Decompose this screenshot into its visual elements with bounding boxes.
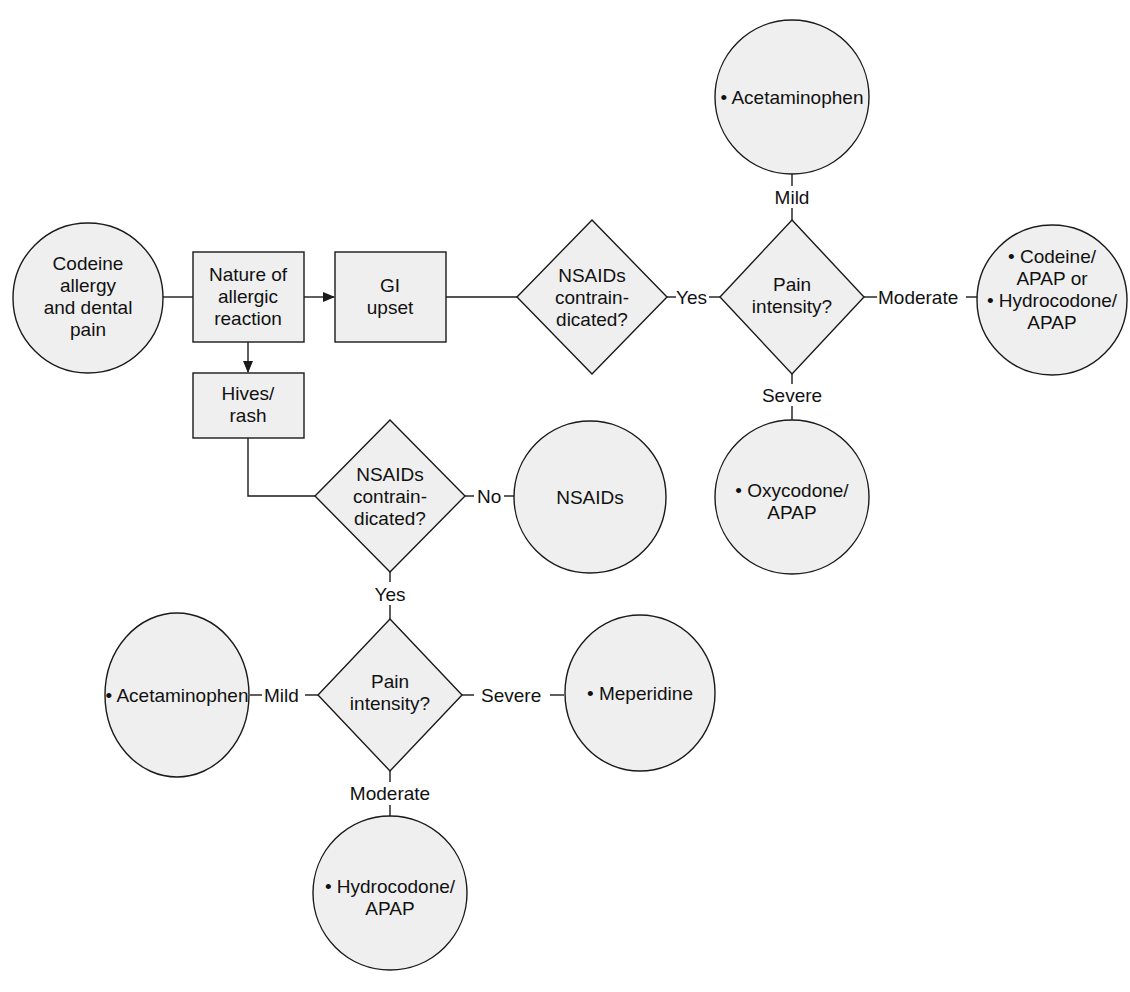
hives-moderate-result-line-1: • Hydrocodone/ <box>325 876 456 897</box>
nature-line-1: Nature of <box>209 264 288 285</box>
hives-no-result-line-1: NSAIDs <box>556 487 624 508</box>
result-hives-nsaids[interactable]: NSAIDs <box>514 421 666 573</box>
decision-hives-pain-intensity[interactable]: Pain intensity? <box>318 619 462 771</box>
start-line-4: pain <box>70 319 106 340</box>
decision-hives-nsaids-contraindicated[interactable]: NSAIDs contrain- dicated? <box>315 420 465 572</box>
hives-moderate-label: Moderate <box>350 783 430 804</box>
hives-moderate-result-line-2: APAP <box>365 898 414 919</box>
gi-decision-line-2: contrain- <box>555 287 629 308</box>
gi-yes-label: Yes <box>676 287 707 308</box>
hives-mild-result-line-1: • Acetaminophen <box>106 685 249 706</box>
hives-line-2: rash <box>230 405 267 426</box>
result-gi-acetaminophen[interactable]: • Acetaminophen <box>715 20 869 174</box>
hives-yes-label: Yes <box>375 584 406 605</box>
hives-severe-result-line-1: • Meperidine <box>587 683 693 704</box>
hives-pain-line-1: Pain <box>371 671 409 692</box>
gi-moderate-result-line-2: APAP or <box>1016 268 1088 289</box>
result-hives-meperidine[interactable]: • Meperidine <box>565 615 715 771</box>
decision-gi-nsaids-contraindicated[interactable]: NSAIDs contrain- dicated? <box>517 220 667 374</box>
gi-mild-label: Mild <box>775 187 810 208</box>
process-nature-of-reaction[interactable]: Nature of allergic reaction <box>193 252 304 342</box>
flowchart: Codeine allergy and dental pain Nature o… <box>0 0 1130 992</box>
hives-no-label: No <box>477 486 501 507</box>
hives-line-1: Hives/ <box>222 383 276 404</box>
gi-severe-result-line-1: • Oxycodone/ <box>735 480 849 501</box>
nature-line-3: reaction <box>214 308 282 329</box>
connector-hives-to-decision <box>248 438 315 496</box>
process-hives-rash[interactable]: Hives/ rash <box>193 373 304 438</box>
nature-line-2: allergic <box>218 286 278 307</box>
gi-moderate-label: Moderate <box>878 287 958 308</box>
result-gi-oxycodone[interactable]: • Oxycodone/ APAP <box>715 420 869 574</box>
gi-moderate-result-line-3: • Hydrocodone/ <box>987 290 1118 311</box>
gi-decision-line-1: NSAIDs <box>558 265 626 286</box>
gi-moderate-result-line-1: • Codeine/ <box>1008 246 1097 267</box>
hives-decision-line-2: contrain- <box>353 486 427 507</box>
gi-decision-line-3: dicated? <box>556 309 628 330</box>
start-line-1: Codeine <box>53 253 124 274</box>
gi-pain-line-1: Pain <box>773 274 811 295</box>
start-line-2: allergy <box>60 275 116 296</box>
gi-moderate-result-line-4: APAP <box>1027 312 1076 333</box>
gi-line-1: GI <box>380 275 400 296</box>
hives-pain-line-2: intensity? <box>350 693 430 714</box>
hives-decision-line-3: dicated? <box>354 508 426 529</box>
gi-severe-result-line-2: APAP <box>767 502 816 523</box>
hives-mild-label: Mild <box>264 685 299 706</box>
process-gi-upset[interactable]: GI upset <box>335 252 446 342</box>
gi-mild-result-line-1: • Acetaminophen <box>721 87 864 108</box>
hives-decision-line-1: NSAIDs <box>356 464 424 485</box>
gi-pain-line-2: intensity? <box>752 296 832 317</box>
gi-line-2: upset <box>367 297 414 318</box>
gi-severe-label: Severe <box>762 385 822 406</box>
hives-severe-label: Severe <box>481 685 541 706</box>
result-gi-codeine-hydrocodone[interactable]: • Codeine/ APAP or • Hydrocodone/ APAP <box>977 225 1127 375</box>
result-hives-acetaminophen[interactable]: • Acetaminophen <box>105 613 249 777</box>
start-line-3: and dental <box>44 297 133 318</box>
start-node-codeine-allergy[interactable]: Codeine allergy and dental pain <box>13 223 163 373</box>
result-hives-hydrocodone[interactable]: • Hydrocodone/ APAP <box>313 816 467 970</box>
decision-gi-pain-intensity[interactable]: Pain intensity? <box>720 220 864 374</box>
